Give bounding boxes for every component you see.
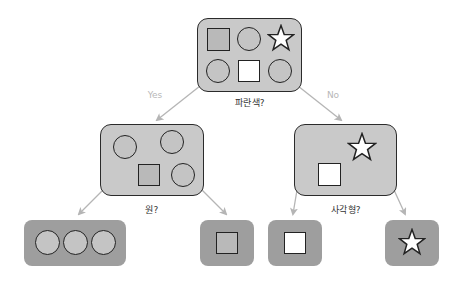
right-question: 사각형? — [331, 203, 361, 216]
white-star-icon — [347, 132, 377, 162]
white-star-icon — [267, 24, 295, 52]
edge-right-left — [293, 190, 297, 214]
leaf-star — [385, 220, 439, 266]
edge-yes — [157, 86, 200, 120]
right-node — [294, 124, 397, 196]
edge-left-left — [79, 190, 103, 214]
leaf-gray-square — [200, 220, 254, 266]
gray-circle-icon — [91, 230, 116, 255]
edge-right-right — [394, 190, 405, 214]
no-label: No — [327, 90, 339, 100]
leaf-white-square — [268, 220, 322, 266]
gray-circle-icon — [268, 59, 292, 83]
gray-square-icon — [138, 164, 160, 186]
gray-circle-icon — [206, 59, 230, 83]
gray-circle-icon — [160, 130, 184, 154]
left-node — [100, 124, 204, 196]
decision-tree-diagram: Yes No 파란색? 원? 사각형? — [0, 0, 459, 282]
white-square-icon — [238, 60, 260, 82]
root-question: 파란색? — [235, 96, 265, 109]
yes-label: Yes — [148, 90, 163, 100]
left-question: 원? — [145, 203, 158, 216]
gray-square-icon — [216, 232, 238, 254]
leaf-circles — [24, 220, 126, 266]
gray-circle-icon — [171, 163, 195, 187]
white-star-icon — [398, 228, 426, 256]
gray-circle-icon — [113, 135, 137, 159]
gray-circle-icon — [63, 230, 88, 255]
gray-square-icon — [207, 28, 230, 51]
white-square-icon — [284, 232, 306, 254]
edge-left-right — [202, 190, 226, 214]
gray-circle-icon — [237, 27, 261, 51]
gray-circle-icon — [35, 230, 60, 255]
root-node — [197, 18, 302, 92]
white-square-icon — [318, 163, 341, 186]
